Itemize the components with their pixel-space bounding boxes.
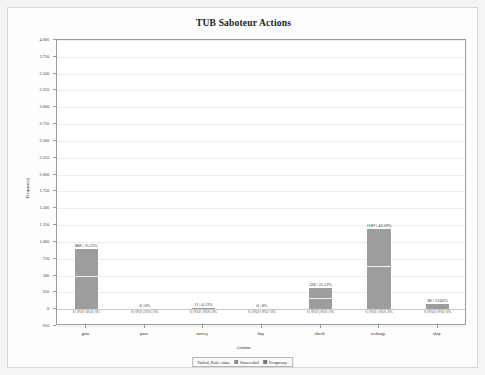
y-tick-label: 250 [8,289,52,294]
y-tick-mark [53,207,56,208]
plot-area: 888 | 35.25%0 | 0%0 | 0%0 | 0%0 | 0%0 | … [56,39,466,325]
bar[interactable] [309,288,332,310]
y-tick-label: 2.500 [8,137,52,142]
x-axis-label: Actions [8,345,479,350]
y-tick-mark [53,106,56,107]
y-tick-mark [53,291,56,292]
bar-baseline-label: 0 | 0%0 | 0%0 | 0% [131,311,158,315]
screenshot-root: TUB Saboteur Actions Frequency 888 | 35.… [0,0,485,375]
gridline [57,74,465,75]
bar-baseline-label: 0 | 0%0 | 0%0 | 0% [365,311,392,315]
gridline [57,158,465,159]
gridline [57,225,465,226]
y-tick-label: 2.750 [8,121,52,126]
y-tick-mark [53,56,56,57]
gridline [57,141,465,142]
chart-card: TUB Saboteur Actions Frequency 888 | 35.… [7,7,478,368]
bar-segment-divider [367,266,390,267]
y-tick-mark [53,258,56,259]
y-tick-label: 1.000 [8,238,52,243]
x-tick-mark [378,325,379,328]
gridline [57,175,465,176]
bar-segment-divider [75,276,98,277]
y-tick-label: 0 [8,306,52,311]
y-tick-label: 1.250 [8,222,52,227]
y-tick-label: 2.250 [8,154,52,159]
y-tick-mark [53,190,56,191]
bar-value-label: 80 | 13.02% [427,298,448,303]
x-tick-label: skip [433,331,440,336]
x-tick-mark [437,325,438,328]
gridline [57,276,465,277]
legend-label: Frequency [269,360,288,365]
y-tick-label: 3.000 [8,104,52,109]
y-tick-mark [53,157,56,158]
x-tick-label: recharge [371,331,386,336]
gridline [57,107,465,108]
x-tick-mark [261,325,262,328]
legend-item[interactable]: Succeeded [234,360,259,365]
y-tick-label: 1.750 [8,188,52,193]
x-tick-mark [320,325,321,328]
legend-label: Succeeded [240,360,259,365]
y-tick-label: 3.750 [8,53,52,58]
y-tick-mark [53,325,56,326]
x-tick-label: check [314,331,324,336]
gridline [57,208,465,209]
y-tick-mark [53,39,56,40]
y-tick-mark [53,140,56,141]
y-tick-mark [53,308,56,309]
y-tick-mark [53,89,56,90]
y-tick-label: 2.000 [8,171,52,176]
legend-swatch [234,360,238,364]
bar-segment-divider [309,298,332,299]
bar-value-label: 320 | 25.12% [309,282,332,287]
chart-legend[interactable]: Failed_Role: noneSucceededFrequency [192,357,294,367]
y-tick-mark [53,224,56,225]
y-tick-label: 1.500 [8,205,52,210]
legend-swatch [263,360,267,364]
y-tick-label: 3.500 [8,70,52,75]
legend-label: Failed_Role: none [198,360,230,365]
bar-value-label: 11 | 0.13% [194,302,212,307]
bar[interactable] [367,229,390,309]
gridline [57,90,465,91]
bar-value-label: 0 | 0% [257,303,268,308]
bar[interactable] [75,249,98,309]
x-tick-mark [202,325,203,328]
x-tick-label: survey [197,331,209,336]
bar-baseline-label: 0 | 0%0 | 0%0 | 0% [248,311,275,315]
bar-baseline-label: 0 | 0%0 | 0%0 | 0% [190,311,217,315]
gridline [57,40,465,41]
y-tick-label: 4.000 [8,37,52,42]
gridline [57,292,465,293]
bar-value-label: 0 | 0% [139,303,150,308]
legend-item[interactable]: Frequency [263,360,288,365]
y-tick-mark [53,73,56,74]
x-tick-mark [85,325,86,328]
gridline [57,124,465,125]
y-tick-mark [53,174,56,175]
bar-baseline-label: 0 | 0%0 | 0%0 | 0% [307,311,334,315]
bar-baseline-label: 0 | 0%0 | 0%0 | 0% [424,311,451,315]
bar-value-label: 888 | 35.25% [75,243,98,248]
gridline [57,57,465,58]
y-tick-mark [53,241,56,242]
bar-baseline-label: 0 | 0%0 | 0%0 | 0% [73,311,100,315]
gridline [57,259,465,260]
gridline [57,191,465,192]
x-tick-mark [144,325,145,328]
y-tick-label: 3.250 [8,87,52,92]
gridline [57,242,465,243]
y-tick-mark [53,123,56,124]
y-tick-label: -250 [8,323,52,328]
y-tick-label: 750 [8,255,52,260]
page-title: TUB Saboteur Actions [8,18,479,28]
x-tick-label: pass [140,331,148,336]
y-tick-label: 500 [8,272,52,277]
x-tick-label: buy [258,331,265,336]
bar[interactable] [426,304,449,309]
y-tick-mark [53,275,56,276]
x-tick-label: goto [81,331,89,336]
legend-item[interactable]: Failed_Role: none [198,360,230,365]
